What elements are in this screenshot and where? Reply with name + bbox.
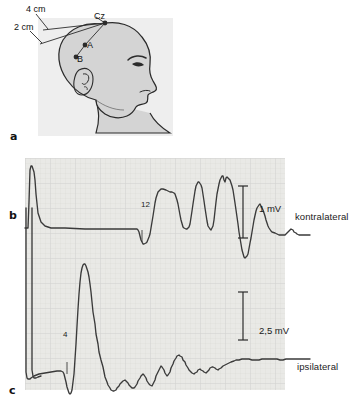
panel-c-grid <box>25 254 285 390</box>
side-label-contralateral: kontralateral <box>295 211 349 222</box>
label-electrode-a: A <box>87 40 93 50</box>
figure-root: 4 cm 2 cm Cz A B a <box>0 0 363 408</box>
label-distance-outer: 4 cm <box>26 4 46 14</box>
label-electrode-cz: Cz <box>94 11 105 21</box>
panel-letter-b: b <box>9 210 17 221</box>
head-diagram <box>0 0 363 150</box>
label-electrode-b: B <box>77 54 83 64</box>
label-distance-inner: 2 cm <box>14 22 34 32</box>
scale-label-contralateral: 1 mV <box>259 203 281 214</box>
panel-letter-c: c <box>9 385 16 396</box>
side-label-ipsilateral: ipsilateral <box>297 361 338 372</box>
scale-label-ipsilateral: 2,5 mV <box>259 325 289 336</box>
latency-label-contralateral: 12 <box>141 200 150 209</box>
panel-letter-a: a <box>10 131 17 142</box>
latency-label-ipsilateral: 4 <box>63 330 67 339</box>
